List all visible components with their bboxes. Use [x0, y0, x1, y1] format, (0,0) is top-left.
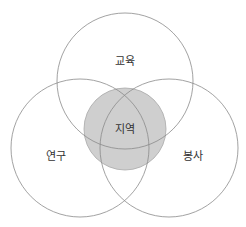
label-community: 지역: [115, 123, 135, 136]
label-education: 교육: [115, 55, 135, 68]
label-research: 연구: [46, 150, 66, 163]
venn-diagram: 교육 연구 봉사 지역: [0, 0, 246, 227]
label-service: 봉사: [183, 150, 203, 163]
